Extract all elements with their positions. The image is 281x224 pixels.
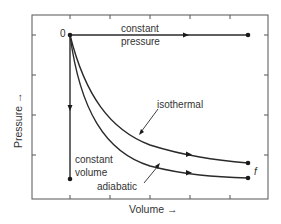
adiabatic-leader: [144, 166, 158, 183]
constant-pressure-label-2: pressure: [121, 36, 160, 47]
y-axis-ticks-right: [264, 35, 268, 155]
initial-point-label: 0: [60, 28, 66, 39]
leader-arrow-icon: [139, 129, 144, 135]
y-axis-ticks: [32, 35, 36, 155]
endpoint-marker: [68, 177, 73, 182]
y-axis-label: Pressure →: [12, 93, 24, 148]
endpoint-marker: [246, 161, 251, 166]
x-axis-ticks-top: [70, 15, 230, 19]
final-point-label: f: [254, 166, 258, 177]
constant-volume-path: [68, 35, 73, 181]
constant-pressure-label-1: constant: [121, 23, 159, 34]
initial-point-marker: [68, 33, 73, 38]
constant-pressure-path: [70, 33, 250, 38]
pv-diagram: 0 constant pressure isothermal adiabatic…: [0, 0, 281, 224]
endpoint-marker: [246, 176, 251, 181]
adiabatic-label: adiabatic: [97, 181, 137, 192]
arrow-right-icon: [183, 33, 189, 38]
constant-volume-label-2: volume: [75, 167, 108, 178]
endpoint-marker: [246, 33, 251, 38]
constant-volume-label-1: constant: [75, 154, 113, 165]
x-axis-ticks: [70, 195, 230, 199]
arrow-down-icon: [68, 105, 73, 111]
arrow-right-icon: [186, 152, 192, 158]
arrow-right-icon: [186, 170, 192, 176]
isothermal-leader: [141, 109, 158, 132]
isothermal-label: isothermal: [157, 99, 203, 110]
x-axis-label: Volume →: [129, 203, 177, 215]
